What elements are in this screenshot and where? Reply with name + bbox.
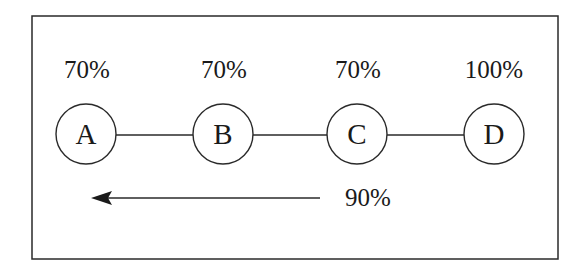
flow-arrow: 90% bbox=[91, 184, 391, 211]
node-a-percent: 70% bbox=[64, 56, 110, 83]
node-c: 70% C bbox=[327, 56, 387, 164]
arrow-percent: 90% bbox=[345, 184, 391, 211]
node-d-percent: 100% bbox=[465, 56, 523, 83]
diagram-canvas: 70% A 70% B 70% C 100% D 90% bbox=[0, 0, 580, 274]
node-a-label: A bbox=[76, 118, 97, 150]
node-b: 70% B bbox=[193, 56, 253, 164]
node-b-percent: 70% bbox=[201, 56, 247, 83]
node-d: 100% D bbox=[464, 56, 524, 164]
node-b-label: B bbox=[213, 118, 232, 150]
node-a: 70% A bbox=[56, 56, 116, 164]
node-d-label: D bbox=[484, 118, 505, 150]
node-c-percent: 70% bbox=[335, 56, 381, 83]
node-c-label: C bbox=[347, 118, 366, 150]
